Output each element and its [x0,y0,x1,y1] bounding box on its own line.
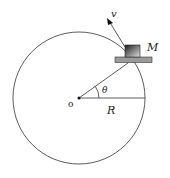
mass-block [125,45,140,57]
velocity-arrow-head [107,18,113,25]
angle-label: θ [102,85,108,95]
angle-arc [95,86,99,98]
platform [115,57,152,63]
velocity-label: v [111,8,117,19]
radius-label: R [106,104,115,117]
mass-label: M [146,41,159,54]
origin-label: o [68,99,73,109]
velocity-arrow-shaft [109,21,125,47]
circular-motion-diagram: v M θ R o [0,0,170,178]
origin-dot [78,97,81,100]
